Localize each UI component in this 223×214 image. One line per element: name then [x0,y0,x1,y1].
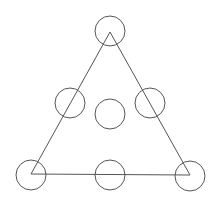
circle-group [16,16,205,191]
circle-center [95,99,125,129]
circle-bottom-left [16,160,46,190]
circle-bottom-right [175,161,205,191]
triangle-circles-diagram [0,0,223,214]
